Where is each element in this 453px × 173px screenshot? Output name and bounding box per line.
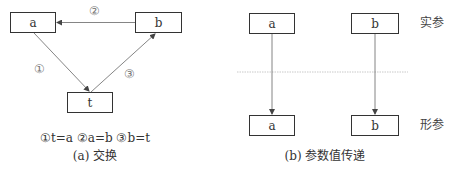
- caption-b: (b) 参数值传递: [285, 150, 366, 162]
- step3-label: ③: [124, 68, 135, 80]
- box-formal-b-label: b: [351, 120, 399, 132]
- actual-params-label: 实参: [420, 17, 444, 29]
- caption-a: (a) 交换: [73, 150, 117, 162]
- box-formal-a-label: a: [249, 120, 295, 132]
- step1-label: ①: [34, 63, 45, 75]
- step2-label: ②: [89, 5, 100, 17]
- steps-caption: ①t=a ②a=b ③b=t: [40, 132, 150, 144]
- box-actual-b-label: b: [351, 18, 399, 30]
- box-b-label: b: [135, 17, 182, 29]
- box-a-label: a: [10, 17, 56, 29]
- formal-params-label: 形参: [420, 119, 444, 131]
- arrow-step3-t-to-b: [91, 34, 155, 92]
- box-t-label: t: [67, 97, 113, 109]
- box-actual-a-label: a: [249, 18, 295, 30]
